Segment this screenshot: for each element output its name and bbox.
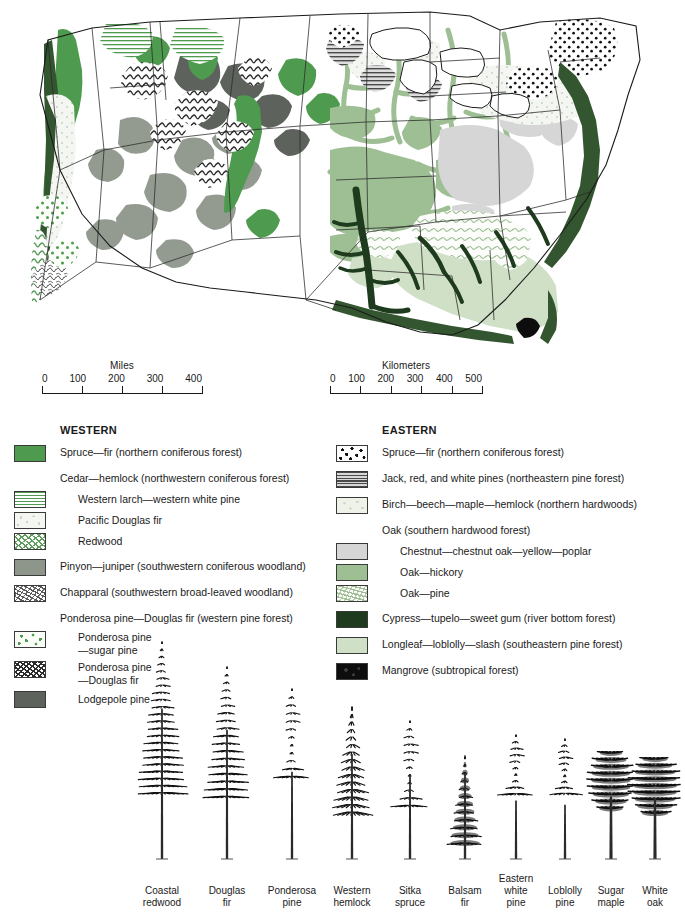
scale-bar-miles: Miles 0100200300400 — [42, 360, 202, 394]
miles-tick-mark — [202, 386, 203, 394]
legend-label: Jack, red, and white pines (northeastern… — [368, 471, 624, 485]
legend-label: Western larch—western white pine — [46, 491, 240, 506]
kilometers-tick-label: 200 — [377, 373, 394, 384]
legend-swatch — [336, 637, 368, 654]
kilometers-tick-mark — [482, 386, 483, 394]
tree-label: Ponderosapine — [259, 885, 325, 909]
tree-label: Westernhemlock — [319, 885, 385, 909]
legend-swatch — [336, 611, 368, 628]
legend-eastern: EASTERN Spruce—fir (northern coniferous … — [336, 424, 660, 684]
tree-cell: Coastalredwood — [129, 655, 195, 913]
legend-label: Spruce—fir (northern coniferous forest) — [46, 445, 242, 459]
legend-label: Spruce—fir (northern coniferous forest) — [368, 445, 564, 459]
miles-tick-label: 400 — [185, 373, 202, 384]
miles-tick-mark — [162, 386, 163, 394]
legend-swatch — [336, 471, 368, 488]
legend-item-eastern[interactable]: Spruce—fir (northern coniferous forest) — [336, 445, 660, 462]
legend-swatch — [14, 491, 46, 508]
kilometers-tick-mark — [421, 386, 422, 394]
scale-bar-kilometers: Kilometers 0100200300400500 — [330, 360, 482, 394]
legend-label: Oak—pine — [368, 585, 450, 600]
kilometers-tick-label: 0 — [330, 373, 336, 384]
legend-item-eastern[interactable]: Oak—hickory — [336, 564, 660, 581]
kilometers-tick-label: 300 — [407, 373, 424, 384]
legend-label: Birch—beech—maple—hemlock (northern hard… — [368, 497, 637, 511]
scale-ticks-miles: 0100200300400 — [42, 373, 202, 384]
kilometers-tick-mark — [330, 386, 331, 394]
miles-tick-label: 0 — [42, 373, 48, 384]
legend-item-eastern[interactable]: Oak—pine — [336, 585, 660, 602]
tree-silhouette — [323, 705, 381, 865]
legend-label: Chestnut—chestnut oak—yellow—poplar — [368, 543, 591, 558]
scale-title-miles: Miles — [42, 360, 202, 371]
legend-item-eastern[interactable]: Longleaf—loblolly—slash (southeastern pi… — [336, 637, 660, 654]
legend-item-eastern[interactable]: Jack, red, and white pines (northeastern… — [336, 471, 660, 488]
kilometers-tick-mark — [391, 386, 392, 394]
scale-ruler-miles — [42, 385, 202, 394]
scale-ticks-kilometers: 0100200300400500 — [330, 373, 482, 384]
legend-swatch — [14, 631, 46, 648]
legend-swatch — [14, 559, 46, 576]
kilometers-tick-label: 400 — [436, 373, 453, 384]
legend-item-western[interactable]: Pacific Douglas fir — [14, 512, 334, 529]
kilometers-tick-label: 100 — [348, 373, 365, 384]
legend-label: Oak—hickory — [368, 564, 463, 579]
legend-heading-eastern: EASTERN — [382, 424, 660, 436]
legend-item-western[interactable]: Western larch—western white pine — [14, 491, 334, 508]
legend-swatch — [336, 564, 368, 581]
kilometers-tick-mark — [360, 386, 361, 394]
legend-item-eastern[interactable]: Cypress—tupelo—sweet gum (river bottom f… — [336, 611, 660, 628]
legend-swatch — [336, 497, 368, 514]
legend-swatch — [14, 533, 46, 550]
us-forest-map — [0, 0, 660, 350]
tree-label: Whiteoak — [622, 885, 685, 909]
legend-label: Ponderosa pine—Douglas fir (western pine… — [46, 611, 293, 625]
legend-label: Pacific Douglas fir — [46, 512, 162, 527]
tree-cell: Ponderosapine — [259, 655, 325, 913]
legend-item-eastern[interactable]: Birch—beech—maple—hemlock (northern hard… — [336, 497, 660, 514]
legend-item-western[interactable]: Chapparal (southwestern broad-leaved woo… — [14, 585, 334, 602]
legend-label: Redwood — [46, 533, 122, 548]
legend-item-western[interactable]: Ponderosa pine—Douglas fir (western pine… — [14, 611, 334, 628]
miles-tick-mark — [42, 386, 43, 394]
legend-item-eastern[interactable]: Oak (southern hardwood forest) — [336, 523, 660, 540]
miles-tick-mark — [122, 386, 123, 394]
tree-cell: Whiteoak — [622, 655, 685, 913]
tree-label: Douglasfir — [194, 885, 260, 909]
tree-silhouette — [195, 665, 259, 865]
legend-label: Pinyon—juniper (southwestern coniferous … — [46, 559, 306, 573]
legend-entries-eastern: Spruce—fir (northern coniferous forest)J… — [336, 445, 660, 680]
legend-swatch — [14, 445, 46, 462]
tree-silhouette — [621, 757, 685, 865]
miles-tick-label: 200 — [108, 373, 125, 384]
tree-cell: Westernhemlock — [319, 655, 385, 913]
tree-cell: Douglasfir — [194, 655, 260, 913]
scale-ruler-kilometers — [330, 385, 482, 394]
legend-heading-western: WESTERN — [60, 424, 334, 436]
legend-swatch — [14, 512, 46, 529]
tree-silhouette — [128, 640, 196, 865]
legend-label: Chapparal (southwestern broad-leaved woo… — [46, 585, 293, 599]
kilometers-tick-label: 500 — [465, 373, 482, 384]
legend-swatch — [336, 543, 368, 560]
miles-tick-label: 100 — [69, 373, 86, 384]
legend-label: Oak (southern hardwood forest) — [368, 523, 530, 537]
legend-item-western[interactable]: Pinyon—juniper (southwestern coniferous … — [14, 559, 334, 576]
legend-item-western[interactable]: Cedar—hemlock (northwestern coniferous f… — [14, 471, 334, 488]
legend-label: Cedar—hemlock (northwestern coniferous f… — [46, 471, 289, 485]
miles-tick-label: 300 — [147, 373, 164, 384]
map-svg — [0, 0, 660, 350]
miles-tick-mark — [82, 386, 83, 394]
tree-silhouette — [262, 687, 322, 865]
legend-item-western[interactable]: Spruce—fir (northern coniferous forest) — [14, 445, 334, 462]
legend-swatch — [336, 585, 368, 602]
kilometers-tick-mark — [452, 386, 453, 394]
tree-comparison-row: CoastalredwoodDouglasfirPonderosapineWes… — [0, 655, 660, 913]
legend-swatch — [14, 585, 46, 602]
legend-item-eastern[interactable]: Chestnut—chestnut oak—yellow—poplar — [336, 543, 660, 560]
tree-label: Coastalredwood — [129, 885, 195, 909]
scale-title-kilometers: Kilometers — [330, 360, 482, 371]
legend-item-western[interactable]: Redwood — [14, 533, 334, 550]
legend-label: Cypress—tupelo—sweet gum (river bottom f… — [368, 611, 615, 625]
